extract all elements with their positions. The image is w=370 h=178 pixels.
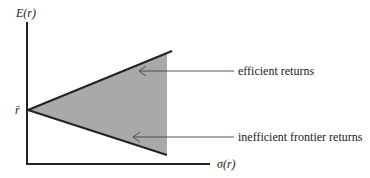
mean-return-label: r̄ <box>15 103 20 117</box>
x-axis-label: σ(r) <box>217 157 236 171</box>
y-axis-label: E(r) <box>15 6 36 20</box>
efficient-returns-label: efficient returns <box>238 64 314 78</box>
frontier-diagram: E(r) σ(r) r̄ efficient returns inefficie… <box>0 0 370 178</box>
feasible-region <box>28 53 167 154</box>
diagram-canvas: E(r) σ(r) r̄ efficient returns inefficie… <box>0 0 370 178</box>
inefficient-returns-label: inefficient frontier returns <box>238 130 363 144</box>
